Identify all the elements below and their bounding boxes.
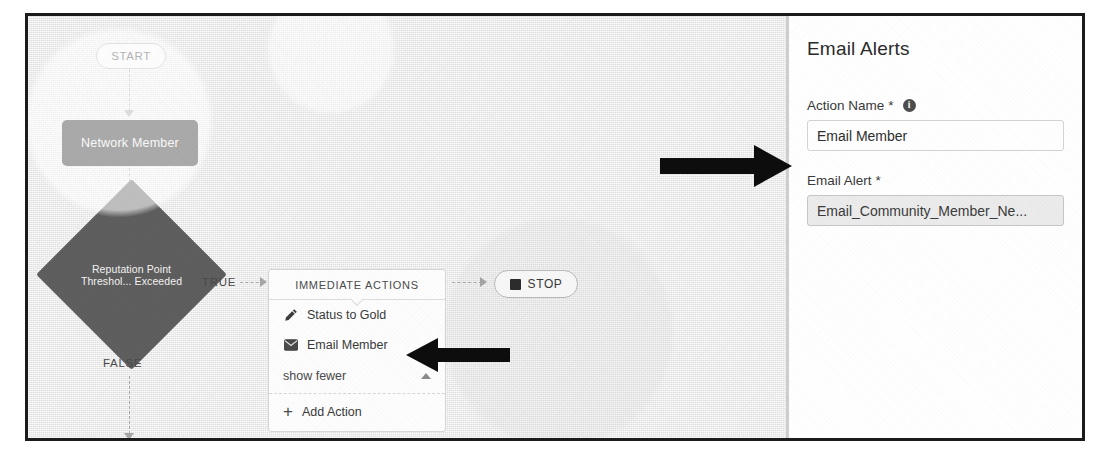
connector-start-to-object [129, 69, 130, 111]
add-action-label: Add Action [302, 405, 362, 419]
envelope-icon [283, 339, 298, 351]
action-name-label: Action Name* i [807, 98, 1064, 113]
field-group-email-alert: Email Alert* [807, 173, 1064, 226]
flow-node-start[interactable]: START [96, 43, 166, 69]
required-mark: * [876, 173, 881, 188]
connector-actions-to-stop [452, 282, 482, 283]
connector-stop-arrowhead-icon [480, 277, 487, 287]
show-fewer-label: show fewer [283, 369, 346, 383]
flow-node-stop[interactable]: STOP [494, 270, 578, 298]
connector-false-arrowhead-icon [124, 433, 134, 438]
action-name-input[interactable] [807, 120, 1064, 151]
email-alert-label: Email Alert* [807, 173, 1064, 188]
stop-label: STOP [528, 277, 563, 291]
flow-node-decision[interactable]: Reputation Point Threshol... Exceeded [64, 207, 199, 342]
action-name-label-text: Action Name [807, 98, 884, 113]
info-icon[interactable]: i [903, 99, 916, 112]
edge-label-false: FALSE [103, 357, 142, 369]
right-arrow-annotation [658, 142, 794, 190]
left-arrow-annotation [404, 334, 512, 376]
start-label: START [111, 50, 151, 62]
add-action-button[interactable]: + Add Action [269, 394, 445, 431]
connector-false-branch [129, 376, 130, 434]
properties-panel: Email Alerts Action Name* i Email Alert* [789, 16, 1082, 438]
flow-canvas[interactable]: START Network Member Reputation Point Th… [28, 16, 786, 438]
field-group-action-name: Action Name* i [807, 98, 1064, 151]
stop-square-icon [510, 279, 521, 290]
connector-true-arrowhead-icon [260, 277, 267, 287]
email-alert-label-text: Email Alert [807, 173, 872, 188]
connector-start-arrowhead-icon [124, 110, 134, 117]
email-alert-input[interactable] [807, 195, 1064, 226]
action-item-label: Email Member [307, 338, 388, 352]
screenshot-root: START Network Member Reputation Point Th… [0, 0, 1111, 472]
action-item-label: Status to Gold [307, 308, 386, 322]
immediate-actions-header: IMMEDIATE ACTIONS [269, 270, 445, 300]
edge-label-true: TRUE [202, 276, 236, 288]
flow-node-network-member[interactable]: Network Member [62, 120, 198, 166]
panel-title: Email Alerts [807, 38, 1064, 60]
decision-label: Reputation Point Threshol... Exceeded [64, 207, 199, 342]
required-mark: * [888, 98, 893, 113]
application-frame: START Network Member Reputation Point Th… [25, 13, 1085, 441]
pencil-icon [283, 308, 298, 322]
plus-icon: + [283, 406, 293, 418]
network-member-label: Network Member [81, 136, 179, 150]
